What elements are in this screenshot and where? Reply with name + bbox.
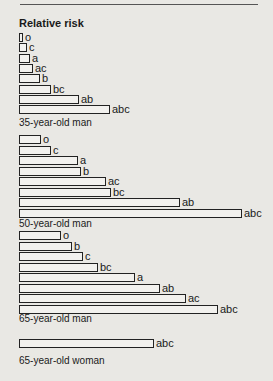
bar-label: ac (188, 293, 200, 303)
bar-label: c (29, 42, 35, 52)
bar-a (19, 273, 135, 282)
bar-c (19, 146, 51, 155)
bar-bc (19, 263, 98, 272)
bar-label: b (83, 166, 89, 176)
group-caption: 65-year-old man (19, 313, 92, 324)
bar-ac (19, 294, 186, 303)
bar-label: o (63, 230, 69, 240)
bar-abc (19, 209, 242, 218)
bar-bc (19, 188, 111, 197)
group-caption: 35-year-old man (19, 117, 92, 128)
bar-label: ab (81, 94, 93, 104)
bar-label: ab (162, 283, 174, 293)
bar-o (19, 231, 61, 240)
bar-ab (19, 284, 160, 293)
group-caption: 65-year-old woman (19, 355, 105, 366)
bar-label: abc (244, 208, 262, 218)
bar-ac (19, 64, 33, 73)
bar-label: abc (156, 338, 174, 348)
bar-c (19, 43, 27, 52)
bar-b (19, 167, 81, 176)
group-caption: 50-year-old man (19, 218, 92, 229)
bar-o (19, 33, 23, 42)
bar-label: abc (112, 104, 130, 114)
bar-label: b (74, 241, 80, 251)
bar-bc (19, 85, 51, 94)
bar-label: bc (100, 262, 112, 272)
bar-abc (19, 339, 154, 348)
bar-label: b (42, 73, 48, 83)
bar-label: bc (53, 84, 65, 94)
bar-abc (19, 105, 110, 114)
bar-label: o (43, 134, 49, 144)
bar-label: a (137, 272, 143, 282)
bar-a (19, 54, 30, 63)
bar-label: bc (113, 187, 125, 197)
bar-label: ac (108, 176, 120, 186)
bar-b (19, 242, 72, 251)
bar-label: a (80, 155, 86, 165)
bar-a (19, 156, 78, 165)
bar-o (19, 135, 41, 144)
bar-label: c (53, 145, 59, 155)
top-rule (20, 4, 258, 5)
bar-ac (19, 177, 106, 186)
bar-ab (19, 95, 79, 104)
bar-label: abc (220, 304, 238, 314)
bar-label: ab (182, 197, 194, 207)
bar-ab (19, 198, 180, 207)
bar-label: c (85, 251, 91, 261)
bar-b (19, 74, 40, 83)
bar-c (19, 252, 83, 261)
chart-title: Relative risk (19, 17, 84, 29)
